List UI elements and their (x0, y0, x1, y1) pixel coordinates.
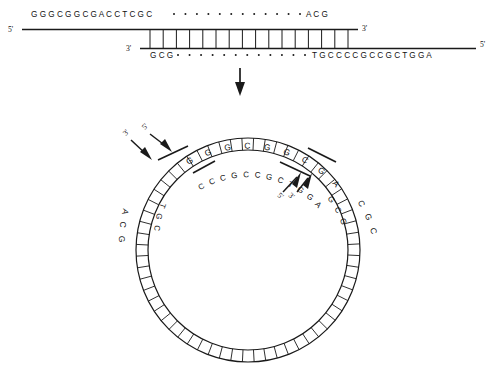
circle-rung (231, 349, 233, 361)
circle-rung (208, 343, 212, 354)
down-arrow-icon (235, 68, 245, 96)
circle-rung (137, 266, 149, 268)
duplex-base-pair-rungs (150, 30, 348, 48)
circle-rung (347, 232, 359, 234)
circle-rung (332, 304, 342, 311)
left-junction-arrow-inner-icon (150, 134, 172, 152)
circle-rung (274, 347, 277, 359)
sequence-gap-dot (265, 13, 267, 15)
left-junction-annotation: 3' 5' (121, 121, 172, 160)
circle-rung (161, 313, 170, 321)
bottom-strand-left-sequence: G C G (150, 51, 173, 60)
sequence-gap-dot (258, 54, 260, 56)
circle-inner-top-sequence: C C C G C C G C T G G A (197, 170, 324, 211)
sequence-gap-dot (230, 13, 232, 15)
circle-rung (140, 221, 152, 224)
left-junction-arrow-outer-icon (131, 140, 152, 160)
circle-left-5prime-label: 5' (140, 121, 151, 131)
sequence-gap-dot (200, 54, 202, 56)
circle-rung (136, 255, 148, 256)
bottom-strand-3prime-label: 3' (126, 44, 132, 53)
sequence-gap-dot (292, 54, 294, 56)
circle-rung (148, 199, 159, 204)
circle-inner-right-sequence: G C G (326, 194, 350, 228)
circle-rung (341, 286, 352, 290)
top-strand-left-sequence: G G G C G G C G A C C T C G C (31, 10, 152, 19)
circle-rung (140, 276, 152, 279)
circle-sequence-labels: G G G C G G C G A C C T C C C G C C G C … (0, 0, 380, 245)
linear-duplex: 5' 3' 3' 5' G G G C G G C G A C C T C G … (8, 10, 486, 60)
top-strand-3prime-label: 3' (362, 24, 368, 33)
sequence-gap-dot (276, 13, 278, 15)
circle-rung (294, 339, 299, 350)
circle-rung (197, 339, 202, 350)
circle-rung (219, 347, 222, 359)
sequence-gap-dot (173, 13, 175, 15)
circle-rung (137, 233, 149, 235)
sequence-gap-dot (299, 13, 301, 15)
circle-rung (345, 276, 357, 279)
circle-rung (253, 350, 254, 362)
circle-rung (148, 296, 159, 301)
circle-rung (326, 313, 335, 321)
sequence-gap-dot (219, 13, 221, 15)
sequence-gap-dot (242, 13, 244, 15)
circle-outer-left-sequence: A C G (117, 208, 131, 246)
sequence-gap-dot (189, 54, 191, 56)
circle-rung (161, 180, 170, 188)
circle-rung (319, 321, 328, 329)
sequence-gap-dot (207, 13, 209, 15)
circle-rung (143, 210, 154, 214)
circle-rung (337, 295, 348, 300)
sequence-gap-dot (212, 54, 214, 56)
circle-inner-left-sequence: T G C (152, 202, 168, 234)
top-strand-gap-dots (173, 13, 301, 15)
sequence-gap-dot (196, 13, 198, 15)
top-strand-right-sequence: A C G (306, 10, 328, 19)
circle-rung (348, 255, 360, 256)
circle-rung (154, 189, 164, 196)
sequence-gap-dot (288, 13, 290, 15)
bottom-strand-5prime-label: 5' (480, 40, 486, 49)
circle-rung (177, 163, 185, 172)
sequence-gap-dot (269, 54, 271, 56)
circle-rung (264, 349, 266, 361)
circle-rung (144, 286, 155, 290)
sequence-gap-dot (223, 54, 225, 56)
sequence-gap-dot (184, 13, 186, 15)
sequence-gap-dot (281, 54, 283, 56)
circle-rung (178, 328, 186, 337)
bottom-strand-gap-dots (177, 54, 306, 56)
circle-right-5prime-label: 5' (276, 191, 286, 202)
circle-rung (303, 334, 310, 344)
circle-rung (187, 334, 194, 344)
circle-rung (311, 328, 319, 337)
sequence-gap-dot (304, 54, 306, 56)
circle-rung (136, 244, 148, 245)
circle-outer-right-sequence: C G C (356, 198, 380, 238)
bottom-strand-right-sequence: T G C C C C G C C G C T G G A (312, 51, 432, 60)
circle-inner-backbone (148, 150, 348, 350)
circle-rung (347, 265, 359, 267)
circle-rung (154, 305, 164, 312)
circle-right-3prime-label: 3' (287, 191, 297, 202)
sequence-gap-dot (246, 54, 248, 56)
circle-rung (284, 343, 288, 354)
circle-rung (348, 244, 360, 245)
sequence-gap-dot (177, 54, 179, 56)
sequence-gap-dot (253, 13, 255, 15)
dna-circularization-figure: 5' 3' 3' 5' G G G C G G C G A C C T C G … (0, 0, 497, 378)
circle-rung (169, 171, 178, 179)
circle-rung (169, 321, 177, 330)
top-strand-5prime-label: 5' (8, 25, 14, 34)
circle-rung (242, 350, 243, 362)
circle-left-3prime-label: 3' (121, 127, 132, 137)
sequence-gap-dot (235, 54, 237, 56)
